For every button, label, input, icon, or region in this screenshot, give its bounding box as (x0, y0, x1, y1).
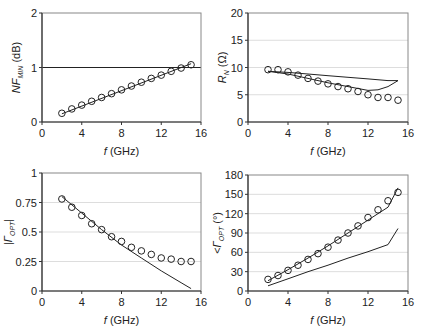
data-point (355, 223, 362, 230)
series-line-model-lower (268, 229, 398, 286)
y-tick-label: 0 (237, 285, 243, 297)
data-point (285, 267, 292, 274)
y-tick-label: 120 (225, 208, 243, 220)
y-tick-label: 30 (231, 266, 243, 278)
figure: 0120481216f (GHz)NFMIN (dB) 051015200481… (0, 0, 421, 335)
data-point (335, 237, 342, 244)
y-tick-label: 60 (231, 246, 243, 258)
x-axis-title: f (GHz) (310, 314, 345, 326)
y-tick-label: 150 (225, 188, 243, 200)
x-tick-label: 0 (245, 296, 251, 308)
x-tick-label: 8 (325, 296, 331, 308)
chart-gamma-angle: 03060901201501800481216f (GHz)<ΓOPT (°) (0, 0, 421, 335)
y-tick-label: 90 (231, 227, 243, 239)
data-point (375, 207, 382, 214)
y-axis-title: <ΓOPT (°) (211, 212, 225, 254)
x-tick-label: 12 (362, 296, 374, 308)
series-markers-measured (265, 189, 402, 283)
y-tick-label: 180 (225, 169, 243, 181)
x-tick-label: 16 (402, 296, 414, 308)
x-tick-label: 4 (285, 296, 291, 308)
data-point (385, 197, 392, 204)
